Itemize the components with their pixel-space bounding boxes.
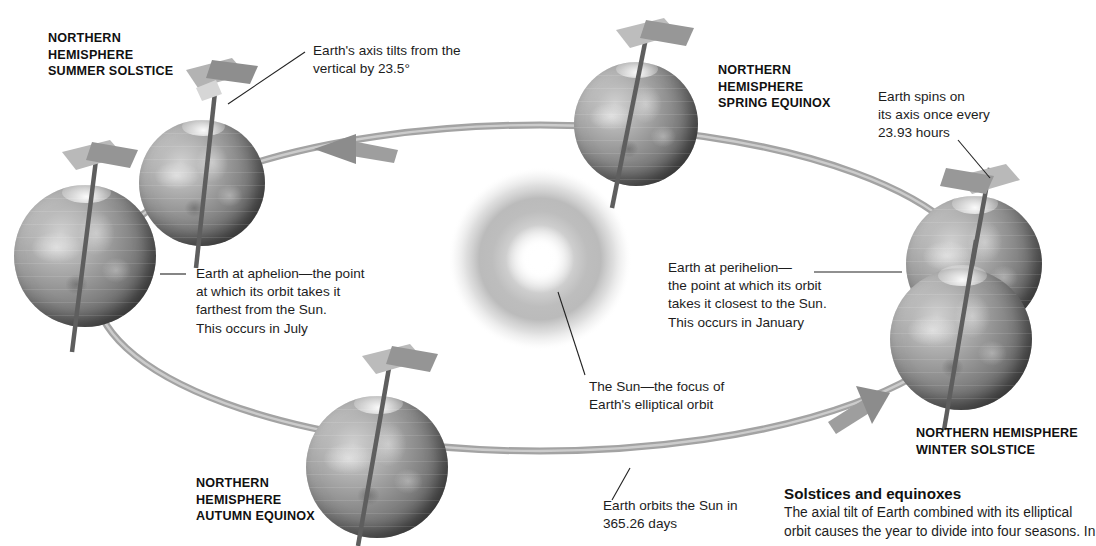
label-winter-solstice: NORTHERN HEMISPHERE WINTER SOLSTICE [916,425,1078,458]
label-spring-equinox: NORTHERN HEMISPHERE SPRING EQUINOX [718,62,831,112]
annotation-sun: The Sun—the focus of Earth's elliptical … [589,378,779,414]
leader-orbital-period [612,468,630,500]
annotation-perihelion: Earth at perihelion— the point at which … [668,259,868,332]
caption-solstices-and-equinoxes: Solstices and equinoxes The axial tilt o… [784,484,1096,541]
leader-axial-tilt [228,52,305,104]
caption-body: The axial tilt of Earth combined with it… [784,504,1096,541]
label-autumn-equinox: NORTHERN HEMISPHERE AUTUMN EQUINOX [196,475,315,525]
diagram-canvas: NORTHERN HEMISPHERE SUMMER SOLSTICE NORT… [0,0,1096,546]
annotation-orbital-period: Earth orbits the Sun in 365.26 days [603,497,783,533]
leader-spin-rate [958,140,990,178]
annotation-aphelion: Earth at aphelion—the point at which its… [196,265,406,338]
leader-sun [558,292,585,375]
label-summer-solstice: NORTHERN HEMISPHERE SUMMER SOLSTICE [48,30,173,80]
leader-lines-layer [0,0,1096,546]
caption-title: Solstices and equinoxes [784,484,1096,503]
annotation-axial-tilt: Earth's axis tilts from the vertical by … [313,42,493,78]
annotation-spin-rate: Earth spins on its axis once every 23.93… [878,88,1038,143]
